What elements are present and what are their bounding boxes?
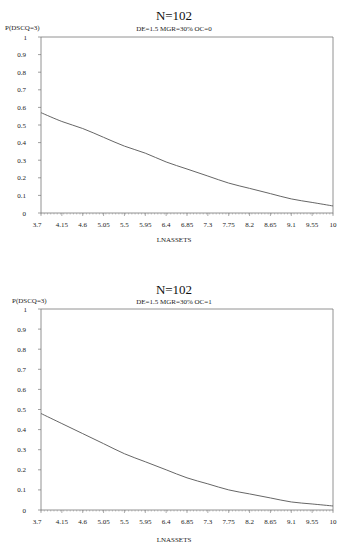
x-tick-label: 8.2: [245, 518, 254, 526]
x-tick-label: 7.75: [223, 518, 236, 526]
y-tick-label: 1: [24, 306, 28, 314]
y-tick-label: 0.3: [17, 446, 26, 454]
x-tick-label: 5.5: [120, 518, 129, 526]
x-tick-label: 5.95: [139, 518, 152, 526]
x-tick-label: 4.6: [78, 518, 87, 526]
x-tick-label: 10: [330, 518, 338, 526]
plot-area: 00.10.20.30.40.50.60.70.80.913.74.154.65…: [0, 0, 348, 549]
x-tick-label: 9.1: [287, 518, 296, 526]
y-tick-label: 0.4: [17, 426, 26, 434]
x-tick-label: 6.85: [181, 518, 194, 526]
y-tick-label: 0.5: [17, 406, 26, 414]
series-line: [41, 414, 333, 506]
x-tick-label: 7.3: [203, 518, 212, 526]
x-tick-label: 6.4: [162, 518, 171, 526]
y-tick-label: 0.8: [17, 346, 26, 354]
y-tick-label: 0: [23, 507, 27, 515]
x-tick-label: 4.15: [56, 518, 69, 526]
chart-oc1: N=102 DE=1.5 MGR=30% OC=1 P(DSCQ=3) 00.1…: [0, 0, 348, 549]
x-tick-label: 3.7: [33, 518, 42, 526]
x-tick-label: 8.65: [264, 518, 277, 526]
y-tick-label: 0.9: [17, 326, 26, 334]
x-axis-label: LNASSETS: [0, 536, 348, 544]
y-tick-label: 0.1: [17, 486, 26, 494]
y-tick-label: 0.6: [17, 386, 26, 394]
x-tick-label: 5.05: [97, 518, 110, 526]
x-tick-label: 9.55: [306, 518, 319, 526]
y-tick-label: 0.7: [17, 366, 26, 374]
y-tick-label: 0.2: [17, 466, 26, 474]
